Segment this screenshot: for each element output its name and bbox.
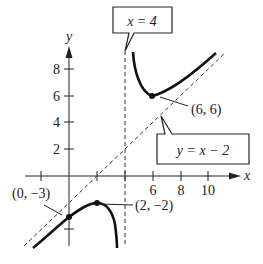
leader-line <box>160 97 188 106</box>
point-2-neg2 <box>94 200 100 206</box>
point-label: (6, 6) <box>191 102 222 118</box>
graph-figure: 6 8 10 x 8 6 4 2 y (0, −3) (2, −2) (6, 6… <box>0 0 263 264</box>
x-tick-label: 6 <box>150 183 157 198</box>
callout-label: x = 4 <box>126 14 157 29</box>
x-tick-label: 10 <box>201 183 215 198</box>
y-tick-label: 4 <box>53 115 60 130</box>
y-axis-arrow-icon <box>66 46 73 58</box>
callout-label: y = x − 2 <box>175 143 229 158</box>
x-axis: 6 8 10 x <box>25 168 251 198</box>
x-axis-arrow-icon <box>229 173 241 180</box>
point-6-6 <box>149 93 155 99</box>
callout-vertical-asymptote: x = 4 <box>113 7 172 51</box>
y-tick-label: 6 <box>53 89 60 104</box>
y-tick-label: 8 <box>53 62 60 77</box>
x-tick-label: 8 <box>178 183 185 198</box>
x-axis-label: x <box>243 168 251 183</box>
y-tick-label: 2 <box>53 142 60 157</box>
y-axis-label: y <box>64 29 73 44</box>
point-label: (2, −2) <box>135 198 174 214</box>
callout-slant-asymptote: y = x − 2 <box>157 116 249 164</box>
point-label: (0, −3) <box>12 186 51 202</box>
y-axis: 8 6 4 2 y <box>53 29 74 246</box>
leader-line <box>44 205 62 215</box>
graph-canvas: 6 8 10 x 8 6 4 2 y (0, −3) (2, −2) (6, 6… <box>0 0 263 264</box>
point-0-neg3 <box>66 214 72 220</box>
